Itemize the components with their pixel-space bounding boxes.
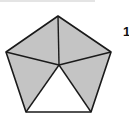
question-number-label: 1 (123, 24, 129, 39)
pentagon-diagram (0, 0, 129, 114)
